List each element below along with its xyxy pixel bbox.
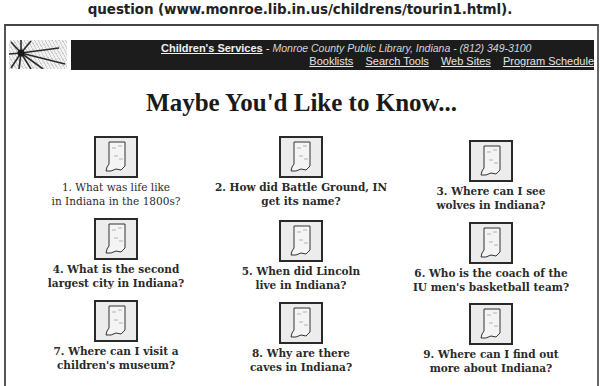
question-item-1[interactable]: 1. What was life likein Indiana in the 1… bbox=[21, 136, 211, 208]
question-label[interactable]: 5. When did Lincolnlive in Indiana? bbox=[206, 264, 396, 292]
page-caption: question (www.monroe.lib.in.us/childrens… bbox=[0, 0, 600, 22]
banner-title-line: Children's Services - Monroe County Publ… bbox=[161, 42, 531, 55]
indiana-map-icon[interactable] bbox=[279, 302, 323, 344]
indiana-map-icon[interactable] bbox=[469, 222, 513, 264]
question-item-9[interactable]: 9. Where can I find outmore about Indian… bbox=[396, 303, 586, 375]
question-label[interactable]: 6. Who is the coach of theIU men's baske… bbox=[396, 266, 586, 294]
question-label[interactable]: 9. Where can I find outmore about Indian… bbox=[396, 347, 586, 375]
page-headline: Maybe You'd Like to Know... bbox=[6, 88, 597, 118]
indiana-map-icon[interactable] bbox=[279, 220, 323, 262]
banner-bar: Children's Services - Monroe County Publ… bbox=[71, 40, 594, 70]
nav-link-search-tools[interactable]: Search Tools bbox=[365, 55, 428, 67]
indiana-map-icon[interactable] bbox=[94, 218, 138, 260]
spider-web-icon bbox=[9, 40, 67, 69]
question-label[interactable]: 8. Why are therecaves in Indiana? bbox=[206, 346, 396, 374]
indiana-map-icon[interactable] bbox=[94, 300, 138, 342]
question-label[interactable]: 2. How did Battle Ground, INget its name… bbox=[206, 180, 396, 208]
question-item-5[interactable]: 5. When did Lincolnlive in Indiana? bbox=[206, 220, 396, 292]
question-label[interactable]: 4. What is the secondlargest city in Ind… bbox=[21, 262, 211, 290]
childrens-services-link[interactable]: Children's Services bbox=[161, 42, 263, 54]
nav-link-web-sites[interactable]: Web Sites bbox=[441, 55, 491, 67]
question-item-2[interactable]: 2. How did Battle Ground, INget its name… bbox=[206, 136, 396, 208]
question-label[interactable]: 1. What was life likein Indiana in the 1… bbox=[21, 180, 211, 208]
banner-separator: - bbox=[263, 42, 273, 54]
question-label[interactable]: 7. Where can I visit achildren's museum? bbox=[21, 344, 211, 372]
indiana-map-icon[interactable] bbox=[279, 136, 323, 178]
question-item-7[interactable]: 7. Where can I visit achildren's museum? bbox=[21, 300, 211, 372]
web-page-frame: Children's Services - Monroe County Publ… bbox=[4, 24, 599, 386]
indiana-map-icon[interactable] bbox=[94, 136, 138, 178]
question-label[interactable]: 3. Where can I seewolves in Indiana? bbox=[396, 184, 586, 212]
question-item-4[interactable]: 4. What is the secondlargest city in Ind… bbox=[21, 218, 211, 290]
banner-nav: Booklists Search Tools Web Sites Program… bbox=[300, 55, 594, 68]
spider-web-logo bbox=[9, 40, 67, 69]
site-banner: Children's Services - Monroe County Publ… bbox=[9, 40, 594, 70]
indiana-map-icon[interactable] bbox=[469, 303, 513, 345]
question-item-3[interactable]: 3. Where can I seewolves in Indiana? bbox=[396, 140, 586, 212]
nav-link-booklists[interactable]: Booklists bbox=[309, 55, 353, 67]
question-item-6[interactable]: 6. Who is the coach of theIU men's baske… bbox=[396, 222, 586, 294]
library-info: Monroe County Public Library, Indiana - … bbox=[272, 42, 531, 54]
nav-link-program-schedule[interactable]: Program Schedule bbox=[503, 55, 594, 67]
question-item-8[interactable]: 8. Why are therecaves in Indiana? bbox=[206, 302, 396, 374]
indiana-map-icon[interactable] bbox=[469, 140, 513, 182]
